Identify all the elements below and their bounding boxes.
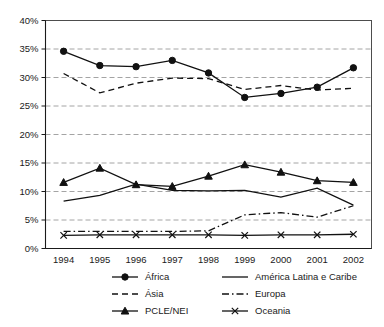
y-tick-label: 10% — [19, 186, 39, 197]
y-tick-label: 30% — [19, 72, 39, 83]
y-tick-label: 35% — [19, 43, 39, 54]
chart-container: 0%5%10%15%20%25%30%35%40% 19941995199619… — [0, 0, 384, 327]
x-tick-label-1997: 1997 — [162, 254, 183, 265]
data-point-marker — [350, 65, 356, 71]
x-tick-label-2002: 2002 — [343, 254, 364, 265]
legend-label: PCLE/NEI — [145, 305, 188, 316]
x-tick-label-1994: 1994 — [53, 254, 74, 265]
x-tick-label-2001: 2001 — [307, 254, 328, 265]
data-point-marker — [278, 90, 284, 96]
legend-label: Oceania — [255, 305, 291, 316]
data-point-marker — [60, 48, 66, 54]
y-tick-label: 15% — [19, 157, 39, 168]
data-point-marker — [122, 274, 128, 280]
y-tick-label: 0% — [25, 243, 39, 254]
x-tick-label-1995: 1995 — [89, 254, 110, 265]
x-tick-label-1998: 1998 — [198, 254, 219, 265]
y-tick-label: 20% — [19, 129, 39, 140]
y-tick-label: 40% — [19, 15, 39, 26]
legend-label: América Latina e Caribe — [255, 271, 357, 282]
data-point-marker — [169, 57, 175, 63]
legend-label: Europa — [255, 288, 286, 299]
x-tick-label-1996: 1996 — [125, 254, 146, 265]
y-tick-label: 5% — [25, 214, 39, 225]
legend-label: Ásia — [145, 288, 164, 299]
x-tick-label-2000: 2000 — [270, 254, 291, 265]
data-point-marker — [133, 63, 139, 69]
x-tick-label-1999: 1999 — [234, 254, 255, 265]
data-point-marker — [97, 62, 103, 68]
data-point-marker — [205, 70, 211, 76]
line-chart: 0%5%10%15%20%25%30%35%40% 19941995199619… — [0, 0, 384, 327]
data-point-marker — [242, 94, 248, 100]
y-tick-label: 25% — [19, 100, 39, 111]
legend-label: África — [145, 271, 170, 282]
